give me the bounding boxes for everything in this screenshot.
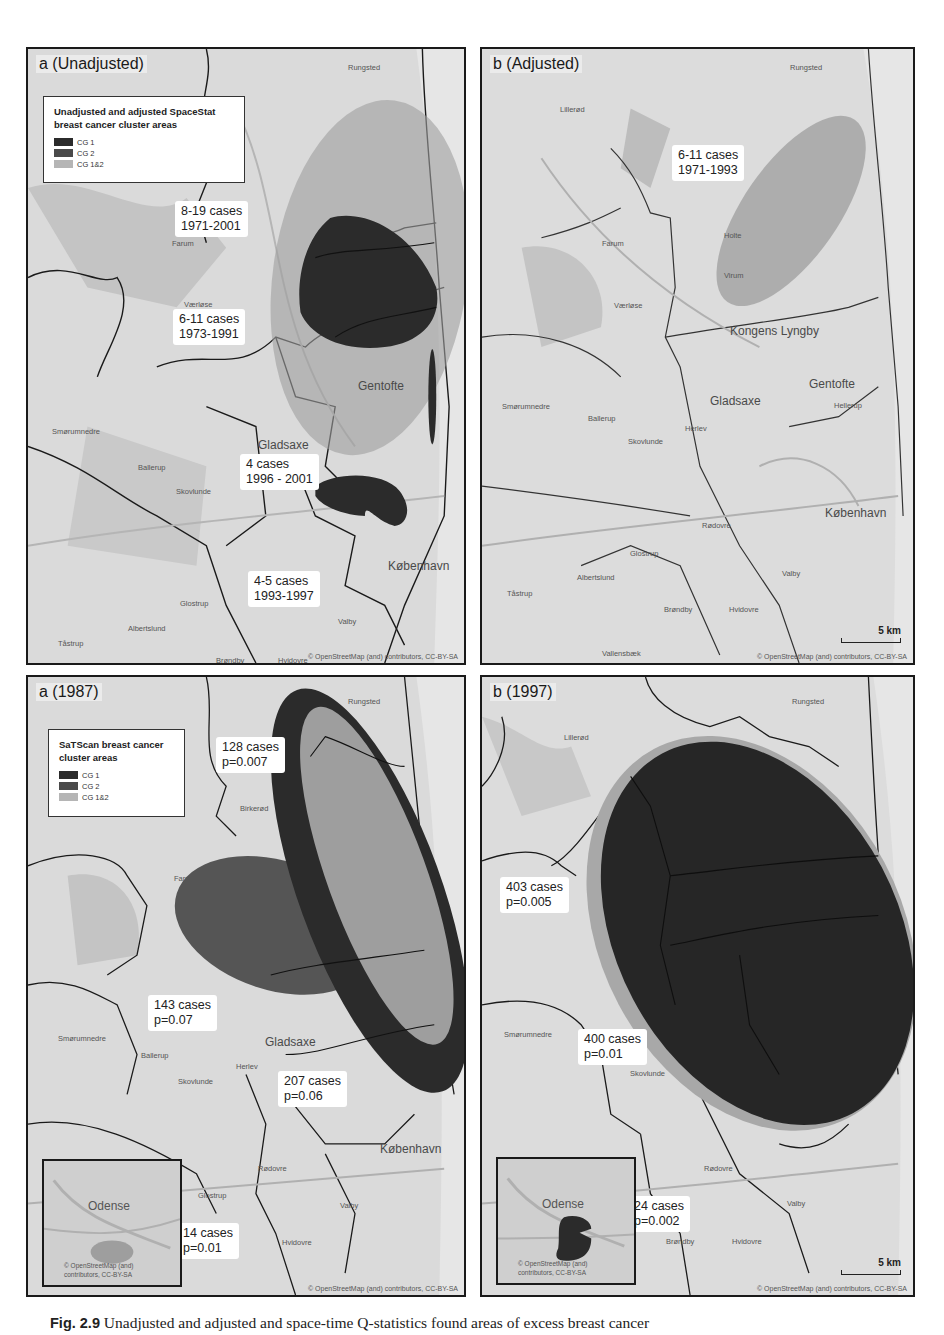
- callout-24-cases: 24 casesp=0.002: [628, 1196, 690, 1232]
- cluster-odense: [91, 1240, 134, 1263]
- place-label: Valby: [782, 569, 800, 578]
- place-label: Værløse: [614, 301, 642, 310]
- legend-title-line1: SaTScan breast cancer: [59, 739, 174, 752]
- place-label: Herlev: [236, 1062, 258, 1071]
- legend-item-cg2: CG 2: [54, 149, 234, 158]
- panel-label: b (1997): [490, 683, 556, 701]
- inset-map-odense: Odense © OpenStreetMap (and)contributors…: [496, 1157, 636, 1285]
- legend-item-cg12: CG 1&2: [54, 160, 234, 169]
- legend-title-line2: breast cancer cluster areas: [54, 119, 234, 132]
- place-label: Tåstrup: [507, 589, 532, 598]
- callout-14-cases: 14 casesp=0.01: [177, 1223, 239, 1259]
- scale-bar: 5 km: [841, 1257, 901, 1275]
- callout-207-cases: 207 casesp=0.06: [278, 1071, 347, 1107]
- legend-title-line2: cluster areas: [59, 752, 174, 765]
- place-label: Glostrup: [630, 549, 658, 558]
- legend-swatch-cg1: [59, 771, 78, 779]
- place-label: København: [380, 1142, 441, 1156]
- base-map: [482, 49, 913, 663]
- map-panel-1987: a (1987) SaTScan breast cancer cluster a…: [26, 675, 466, 1297]
- place-label: Skovlunde: [628, 437, 663, 446]
- inset-attribution: © OpenStreetMap (and)contributors, CC-BY…: [518, 1260, 587, 1277]
- place-label: Birkerød: [240, 804, 268, 813]
- callout-403-cases: 403 casesp=0.005: [500, 877, 569, 913]
- map-attribution: © OpenStreetMap (and) contributors, CC-B…: [308, 653, 458, 660]
- place-label: Gladsaxe: [265, 1035, 316, 1049]
- place-label: Rødovre: [258, 1164, 287, 1173]
- place-label: Virum: [724, 271, 743, 280]
- place-label: Smørumnedre: [58, 1034, 106, 1043]
- place-label: Smørumnedre: [504, 1030, 552, 1039]
- place-label: Ballerup: [141, 1051, 169, 1060]
- place-label: Smørumnedre: [52, 427, 100, 436]
- place-label: Gladsaxe: [258, 438, 309, 452]
- legend-item-cg2: CG 2: [59, 782, 174, 791]
- callout-128-cases: 128 casesp=0.007: [216, 737, 285, 773]
- place-label: Valby: [340, 1201, 358, 1210]
- legend-item-cg1: CG 1: [59, 771, 174, 780]
- legend: Unadjusted and adjusted SpaceStat breast…: [43, 96, 245, 183]
- place-label: Hvidovre: [732, 1237, 762, 1246]
- place-label: København: [388, 559, 449, 573]
- place-label: København: [825, 506, 886, 520]
- map-panel-1997: b (1997) 403 casesp=0.005 400 casesp=0.0…: [480, 675, 915, 1297]
- place-label: Værløse: [184, 300, 212, 309]
- place-label: Herlev: [685, 424, 707, 433]
- place-label: Rungsted: [348, 63, 380, 72]
- map-attribution: © OpenStreetMap (and) contributors, CC-B…: [757, 1285, 907, 1292]
- panel-label: a (1987): [36, 683, 102, 701]
- place-label: Gladsaxe: [710, 394, 761, 408]
- map-attribution: © OpenStreetMap (and) contributors, CC-B…: [757, 653, 907, 660]
- place-label: Ballerup: [138, 463, 166, 472]
- place-label: Rungsted: [792, 697, 824, 706]
- place-label: Hellerup: [834, 401, 862, 410]
- legend-swatch-cg1: [54, 138, 73, 146]
- legend-swatch-cg2: [59, 782, 78, 790]
- place-label: Lillerød: [564, 733, 589, 742]
- place-label: Lillerød: [560, 105, 585, 114]
- place-label: Holte: [724, 231, 742, 240]
- place-label: Rødovre: [702, 521, 731, 530]
- place-label: Skovlunde: [176, 487, 211, 496]
- figure-caption: Fig. 2.9 Unadjusted and adjusted and spa…: [50, 1314, 649, 1332]
- cluster-cg2-thin: [428, 349, 436, 444]
- callout-4-5-cases: 4-5 cases1993-1997: [248, 571, 320, 607]
- map-panel-unadjusted: a (Unadjusted) Unadjusted and adjusted S…: [26, 47, 466, 665]
- place-label: Gentofte: [809, 377, 855, 391]
- place-label: Hvidovre: [278, 656, 308, 665]
- legend-item-cg12: CG 1&2: [59, 793, 174, 802]
- place-label: Valby: [787, 1199, 805, 1208]
- map-attribution: © OpenStreetMap (and) contributors, CC-B…: [308, 1285, 458, 1292]
- panel-label: a (Unadjusted): [36, 55, 147, 73]
- legend-swatch-cg12: [54, 160, 73, 168]
- place-label: Tåstrup: [58, 639, 83, 648]
- place-label: Farum: [174, 874, 196, 883]
- place-label: Albertslund: [577, 573, 615, 582]
- place-label: Ballerup: [588, 414, 616, 423]
- place-label: Valby: [338, 617, 356, 626]
- inset-city-label: Odense: [542, 1197, 584, 1211]
- legend: SaTScan breast cancer cluster areas CG 1…: [48, 729, 185, 817]
- callout-143-cases: 143 casesp=0.07: [148, 995, 217, 1031]
- place-label: Hvidovre: [729, 605, 759, 614]
- place-label: Brøndby: [666, 1237, 694, 1246]
- place-label: Vallensbæk: [602, 649, 641, 658]
- callout-4-cases: 4 cases1996 - 2001: [240, 454, 319, 490]
- place-label: Glostrup: [180, 599, 208, 608]
- legend-title-line1: Unadjusted and adjusted SpaceStat: [54, 106, 234, 119]
- place-label: Hvidovre: [282, 1238, 312, 1247]
- callout-6-11-cases: 6-11 cases1973-1991: [173, 309, 245, 345]
- place-label: Albertslund: [128, 624, 166, 633]
- place-label: Farum: [602, 239, 624, 248]
- figure-caption-label: Fig. 2.9: [50, 1315, 100, 1331]
- scale-bar: 5 km: [841, 625, 901, 643]
- place-label: Smørumnedre: [502, 402, 550, 411]
- place-label: Brøndby: [216, 656, 244, 665]
- callout-8-19-cases: 8-19 cases1971-2001: [175, 201, 248, 237]
- legend-swatch-cg12: [59, 793, 78, 801]
- inset-city-label: Odense: [88, 1199, 130, 1213]
- panel-label: b (Adjusted): [490, 55, 582, 73]
- place-label: Brøndby: [664, 605, 692, 614]
- callout-6-11-cases: 6-11 cases1971-1993: [672, 145, 744, 181]
- callout-400-cases: 400 casesp=0.01: [578, 1029, 647, 1065]
